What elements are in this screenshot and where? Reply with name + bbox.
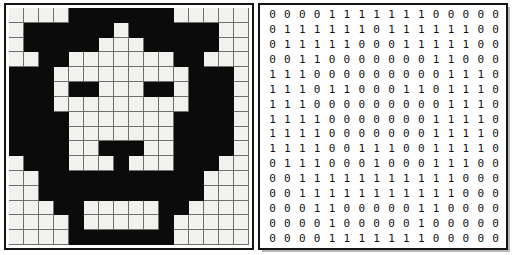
bitmap-cell bbox=[99, 171, 114, 186]
bitmap-cell bbox=[234, 141, 249, 156]
matrix-digit: 0 bbox=[473, 216, 488, 231]
matrix-digit: 1 bbox=[458, 22, 473, 37]
matrix-digit: 0 bbox=[339, 97, 354, 112]
bitmap-cell bbox=[24, 201, 39, 216]
bitmap-cell bbox=[129, 156, 144, 171]
matrix-digit: 1 bbox=[399, 7, 414, 22]
matrix-digit: 0 bbox=[414, 112, 429, 127]
matrix-digit: 0 bbox=[354, 112, 369, 127]
bitmap-cell bbox=[219, 156, 234, 171]
matrix-digit: 1 bbox=[325, 216, 340, 231]
matrix-digit: 0 bbox=[265, 231, 280, 246]
matrix-digit: 0 bbox=[339, 201, 354, 216]
matrix-digit: 0 bbox=[354, 216, 369, 231]
bitmap-cell bbox=[174, 141, 189, 156]
matrix-digit: 0 bbox=[265, 7, 280, 22]
matrix-digit: 1 bbox=[473, 67, 488, 82]
matrix-digit: 0 bbox=[414, 67, 429, 82]
bitmap-cell bbox=[234, 171, 249, 186]
matrix-digit: 0 bbox=[429, 231, 444, 246]
matrix-digit: 1 bbox=[429, 52, 444, 67]
bitmap-cell bbox=[129, 215, 144, 230]
bitmap-cell bbox=[39, 127, 54, 142]
matrix-digit: 0 bbox=[354, 52, 369, 67]
bitmap-cell bbox=[234, 52, 249, 67]
matrix-digit: 0 bbox=[369, 22, 384, 37]
matrix-digit: 1 bbox=[429, 186, 444, 201]
bitmap-cell bbox=[24, 112, 39, 127]
matrix-digit: 1 bbox=[310, 127, 325, 142]
bitmap-cell bbox=[189, 52, 204, 67]
matrix-digit: 1 bbox=[354, 7, 369, 22]
bitmap-cell bbox=[54, 112, 69, 127]
bitmap-cell bbox=[129, 82, 144, 97]
matrix-digit: 1 bbox=[265, 67, 280, 82]
matrix-digit: 0 bbox=[458, 171, 473, 186]
bitmap-cell bbox=[234, 67, 249, 82]
matrix-digit: 1 bbox=[310, 186, 325, 201]
bitmap-cell bbox=[39, 215, 54, 230]
matrix-digit: 0 bbox=[488, 156, 503, 171]
bitmap-cell bbox=[69, 52, 84, 67]
bitmap-cell bbox=[39, 67, 54, 82]
matrix-digit: 0 bbox=[339, 127, 354, 142]
matrix-digit: 1 bbox=[444, 141, 459, 156]
bitmap-cell bbox=[144, 201, 159, 216]
matrix-digit: 0 bbox=[458, 186, 473, 201]
bitmap-cell bbox=[24, 215, 39, 230]
matrix-digit: 1 bbox=[354, 186, 369, 201]
bitmap-cell bbox=[204, 97, 219, 112]
bitmap-cell bbox=[114, 112, 129, 127]
bitmap-cell bbox=[144, 186, 159, 201]
matrix-digit: 1 bbox=[399, 82, 414, 97]
matrix-digit: 1 bbox=[458, 112, 473, 127]
bitmap-cell bbox=[84, 82, 99, 97]
bitmap-cell bbox=[9, 230, 24, 245]
bitmap-cell bbox=[189, 127, 204, 142]
bitmap-cell bbox=[174, 112, 189, 127]
bitmap-cell bbox=[219, 97, 234, 112]
bitmap-cell bbox=[39, 171, 54, 186]
matrix-digit: 1 bbox=[280, 141, 295, 156]
bitmap-cell bbox=[99, 67, 114, 82]
matrix-digit: 1 bbox=[339, 231, 354, 246]
bitmap-cell bbox=[54, 215, 69, 230]
matrix-digit: 0 bbox=[414, 97, 429, 112]
bitmap-cell bbox=[219, 8, 234, 23]
bitmap-cell bbox=[204, 156, 219, 171]
matrix-digit: 0 bbox=[399, 97, 414, 112]
matrix-digit: 0 bbox=[354, 127, 369, 142]
bitmap-cell bbox=[9, 23, 24, 38]
bitmap-cell bbox=[24, 82, 39, 97]
bitmap-cell bbox=[54, 186, 69, 201]
matrix-digit: 0 bbox=[429, 67, 444, 82]
matrix-digit: 1 bbox=[325, 201, 340, 216]
matrix-digit: 1 bbox=[414, 186, 429, 201]
matrix-digit: 1 bbox=[414, 7, 429, 22]
matrix-digit: 1 bbox=[295, 97, 310, 112]
bitmap-cell bbox=[159, 38, 174, 53]
bitmap-cell bbox=[204, 8, 219, 23]
matrix-digit: 0 bbox=[265, 156, 280, 171]
matrix-digit: 1 bbox=[325, 171, 340, 186]
bitmap-cell bbox=[204, 67, 219, 82]
bitmap-cell bbox=[144, 67, 159, 82]
matrix-digit: 1 bbox=[429, 127, 444, 142]
matrix-digit: 1 bbox=[295, 141, 310, 156]
matrix-digit: 0 bbox=[473, 171, 488, 186]
matrix-digit: 0 bbox=[325, 52, 340, 67]
bitmap-cell bbox=[24, 141, 39, 156]
bitmap-cell bbox=[219, 201, 234, 216]
bitmap-cell bbox=[174, 67, 189, 82]
bitmap-cell bbox=[69, 230, 84, 245]
bitmap-cell bbox=[99, 186, 114, 201]
bitmap-pixel-grid bbox=[9, 8, 249, 245]
matrix-digit: 0 bbox=[354, 67, 369, 82]
matrix-digit: 0 bbox=[339, 216, 354, 231]
matrix-digit: 0 bbox=[473, 231, 488, 246]
bitmap-cell bbox=[219, 171, 234, 186]
matrix-digit: 0 bbox=[444, 216, 459, 231]
matrix-digit: 0 bbox=[369, 127, 384, 142]
bitmap-cell bbox=[219, 52, 234, 67]
bitmap-cell bbox=[234, 38, 249, 53]
